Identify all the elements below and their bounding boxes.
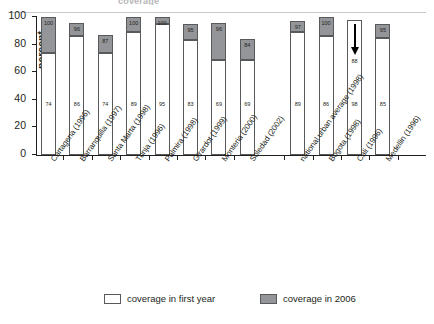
top-divider-rule [8,12,426,13]
bar-segment-2006[interactable]: 100 [155,17,170,24]
bar-value-first-year: 98 [348,102,361,108]
bar-value-first-year: 74 [99,102,112,108]
bar-value-first-year: 89 [127,102,140,108]
bar-value-2006: 100 [320,21,333,27]
legend-item-first: coverage in first year [104,293,215,304]
y-tick-label: 60 [14,64,26,76]
y-tick-20: 20 [32,126,37,127]
legend-swatch-first [104,294,121,304]
bar-value-2006: 96 [212,27,225,33]
legend-swatch-later [260,294,277,304]
decrease-arrow-annotation [348,24,361,58]
bar-value-first-year: 86 [320,102,333,108]
bar-value-2006: 100 [127,21,140,27]
chart-legend: coverage in first yearcoverage in 2006 [36,293,426,309]
y-tick-60: 60 [32,71,37,72]
y-tick-label: 20 [14,119,26,131]
bar-segment-2006[interactable]: 87 [98,35,113,53]
bar-value-first-year: 74 [42,102,55,108]
bar-segment-2006[interactable]: 96 [69,23,84,37]
y-tick-label: 100 [8,9,26,21]
bar-segment-2006[interactable]: 96 [211,23,226,60]
bar-segment-2006[interactable]: 97 [290,21,305,32]
bar-segment-2006[interactable]: 100 [41,17,56,53]
bar-cartagena-1996[interactable]: 74100 [41,17,56,155]
y-tick-40: 40 [32,99,37,100]
bar-value-first-year: 89 [291,102,304,108]
bar-value-2006: 97 [291,25,304,31]
bar-value-2006: 100 [156,21,169,27]
chart-figure: coverage 020406080100 percent 7410086967… [0,0,434,324]
bar-value-2006: 100 [42,21,55,27]
down-arrow-icon-head [351,47,359,55]
bar-value-2006: 95 [184,28,197,34]
down-arrow-icon-shaft [354,24,356,49]
x-axis-category-labels: Cartagena (1996)Barranquilla (1997)Santa… [36,158,434,268]
bar-segment-first-year[interactable]: 74 [41,53,56,155]
bar-segment-2006[interactable]: 95 [183,24,198,41]
bar-value-first-year: 69 [241,102,254,108]
legend-item-later: coverage in 2006 [260,293,356,304]
bar-segment-first-year[interactable]: 89 [290,32,305,155]
bar-segment-2006[interactable]: 100 [126,17,141,32]
bar-value-first-year: 83 [184,102,197,108]
bar-value-first-year: 85 [376,102,389,108]
legend-label: coverage in 2006 [283,293,356,304]
bar-value-2006: 87 [99,39,112,45]
bar-value-first-year: 69 [212,102,225,108]
cropped-title-remnant: coverage [118,0,238,5]
y-tick-100: 100 [32,16,37,17]
bar-segment-2006[interactable]: 100 [319,17,334,36]
y-tick-label: 80 [14,37,26,49]
bar-value-first-year: 86 [70,102,83,108]
bar-value-2006: 84 [241,43,254,49]
bar-value-2006: 88 [348,59,361,65]
y-tick-label: 0 [20,147,26,159]
legend-label: coverage in first year [127,293,215,304]
bar-segment-2006[interactable]: 95 [375,24,390,38]
bar-value-2006: 95 [376,28,389,34]
bar-national-urban-average-1998[interactable]: 8997 [290,21,305,155]
bar-value-first-year: 95 [156,102,169,108]
bar-value-2006: 96 [70,27,83,33]
y-tick-0: 0 [32,154,37,155]
bar-segment-2006[interactable]: 84 [240,39,255,60]
y-tick-label: 40 [14,92,26,104]
